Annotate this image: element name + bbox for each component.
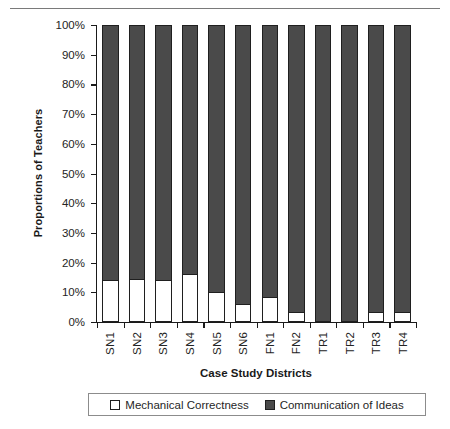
bar-sn4 [182,25,198,322]
bar-segment-mechanical-correctness [102,280,118,322]
chart-legend: Mechanical Correctness Communication of … [88,393,426,416]
x-tick-label-sn1: SN1 [104,332,116,355]
x-tick-label-sn4: SN4 [184,332,196,355]
bar-fn1 [262,25,278,322]
bar-segment-communication-of-ideas [155,25,171,280]
bar-segment-mechanical-correctness [155,280,171,322]
y-tick-label: 90% [0,49,85,61]
bar-tr2 [341,25,357,322]
bar-segment-communication-of-ideas [315,25,331,322]
x-tick-mark [416,322,417,328]
legend-swatch-dark-icon [265,400,275,410]
y-tick-label: 100% [0,19,85,31]
plot-area [97,25,416,322]
x-tick-mark [336,322,337,328]
x-tick-mark [150,322,151,328]
x-tick-label-sn5: SN5 [211,332,223,355]
bar-segment-mechanical-correctness [288,312,304,322]
bar-sn1 [102,25,118,322]
y-tick-label: 40% [0,197,85,209]
x-tick-label-tr1: TR1 [317,332,329,354]
bar-segment-mechanical-correctness [368,312,384,322]
bar-segment-mechanical-correctness [208,292,224,322]
x-tick-mark [283,322,284,328]
bar-segment-communication-of-ideas [208,25,224,292]
bar-segment-communication-of-ideas [262,25,278,297]
x-tick-mark [97,322,98,328]
bar-sn5 [208,25,224,322]
y-tick-label: 60% [0,138,85,150]
bar-sn2 [129,25,145,322]
x-tick-label-fn2: FN2 [290,332,302,354]
y-tick-label: 50% [0,168,85,180]
bar-segment-communication-of-ideas [102,25,118,280]
bar-segment-communication-of-ideas [182,25,198,274]
x-tick-mark [363,322,364,328]
x-tick-mark [177,322,178,328]
bar-sn6 [235,25,251,322]
legend-label-communication-of-ideas: Communication of Ideas [280,399,404,411]
y-axis-ticks: 0%10%20%30%40%50%60%70%80%90%100% [0,0,96,429]
chart-figure: Proportions of Teachers 0%10%20%30%40%50… [0,0,450,429]
bar-segment-mechanical-correctness [394,312,410,322]
bar-segment-communication-of-ideas [341,25,357,322]
x-tick-label-tr3: TR3 [370,332,382,354]
x-tick-mark [310,322,311,328]
y-tick-label: 20% [0,257,85,269]
x-tick-label-tr2: TR2 [344,332,356,354]
bar-tr3 [368,25,384,322]
x-tick-mark [203,322,204,328]
x-tick-mark [257,322,258,328]
legend-item-communication-of-ideas: Communication of Ideas [265,399,404,411]
legend-item-mechanical-correctness: Mechanical Correctness [110,399,248,411]
y-tick-label: 0% [0,316,85,328]
bar-segment-communication-of-ideas [394,25,410,312]
x-axis-title: Case Study Districts [96,367,416,379]
x-tick-mark [230,322,231,328]
bar-tr4 [394,25,410,322]
legend-swatch-light-icon [110,400,120,410]
bar-segment-mechanical-correctness [262,297,278,322]
y-tick-label: 30% [0,227,85,239]
bar-segment-mechanical-correctness [129,279,145,322]
x-tick-label-fn1: FN1 [264,332,276,354]
y-tick-label: 70% [0,108,85,120]
legend-label-mechanical-correctness: Mechanical Correctness [125,399,248,411]
bar-segment-communication-of-ideas [129,25,145,279]
bar-tr1 [315,25,331,322]
x-tick-mark [389,322,390,328]
bar-segment-communication-of-ideas [368,25,384,312]
bar-segment-communication-of-ideas [235,25,251,304]
y-tick-label: 10% [0,286,85,298]
x-tick-label-tr4: TR4 [397,332,409,354]
x-tick-label-sn3: SN3 [157,332,169,355]
bar-sn3 [155,25,171,322]
bar-fn2 [288,25,304,322]
bar-segment-mechanical-correctness [235,304,251,322]
bar-segment-mechanical-correctness [182,274,198,322]
y-tick-label: 80% [0,78,85,90]
bar-segment-communication-of-ideas [288,25,304,312]
x-tick-mark [124,322,125,328]
x-tick-label-sn6: SN6 [237,332,249,355]
x-tick-label-sn2: SN2 [131,332,143,355]
